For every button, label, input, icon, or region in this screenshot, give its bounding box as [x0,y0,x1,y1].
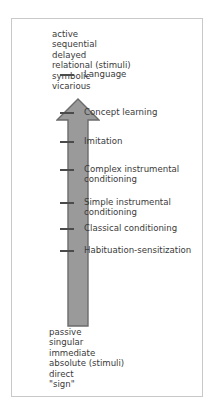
list-item: "sign" [49,379,124,389]
list-item: singular [49,337,124,347]
stage-tick-icon [60,74,74,76]
stage-label: Habituation-sensitization [84,245,191,255]
stage-row-classical-conditioning: Classical conditioning [56,223,177,233]
stage-label: Imitation [84,136,122,146]
stage-label: Language [84,69,126,79]
stage-row-concept-learning: Concept learning [56,107,157,117]
stage-row-language: Language [56,69,126,79]
stage-label: Classical conditioning [84,223,177,233]
stage-tick-icon [60,250,74,252]
stage-tick-icon [60,112,74,114]
list-item: direct [49,369,124,379]
stage-tick-icon [60,169,74,171]
stage-tick-icon [60,141,74,143]
list-item: immediate [49,348,124,358]
stage-row-complex-instrumental-conditioning: Complex instrumental conditioning [56,164,179,185]
bottom-pole-descriptor-list: passive singular immediate absolute (sti… [49,327,124,389]
stage-tick-icon [60,202,74,204]
stage-row-simple-instrumental-conditioning: Simple instrumental conditioning [56,197,171,218]
stage-label: Simple instrumental conditioning [84,197,171,218]
figure-frame: active sequential delayed relational (st… [11,18,203,397]
stage-label: Complex instrumental conditioning [84,164,179,185]
list-item: passive [49,327,124,337]
stage-tick-icon [60,228,74,230]
stage-label: Concept learning [84,107,157,117]
stage-row-habituation-sensitization: Habituation-sensitization [56,245,191,255]
stage-row-imitation: Imitation [56,136,122,146]
list-item: absolute (stimuli) [49,358,124,368]
